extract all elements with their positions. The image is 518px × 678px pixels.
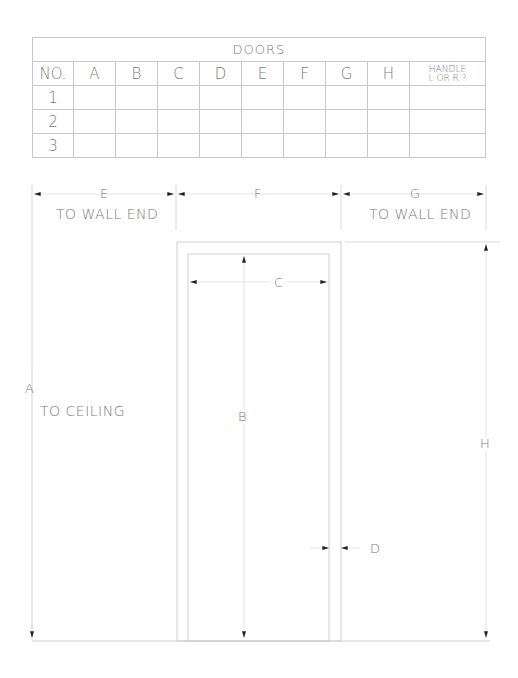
dim-e-label: E <box>100 186 109 201</box>
dim-b-label: B <box>238 409 247 424</box>
door-elevation-drawing <box>0 0 518 678</box>
dim-a-label: A <box>25 381 34 396</box>
dim-e-note: TO WALL END <box>56 206 158 222</box>
dim-a-note: TO CEILING <box>40 403 125 419</box>
dim-c-label: C <box>271 275 287 290</box>
dim-g-label: G <box>410 186 421 201</box>
dim-d-label: D <box>370 541 381 556</box>
dim-f-label: F <box>254 186 262 201</box>
dim-g-note: TO WALL END <box>369 206 471 222</box>
dim-h-label: H <box>480 436 490 451</box>
